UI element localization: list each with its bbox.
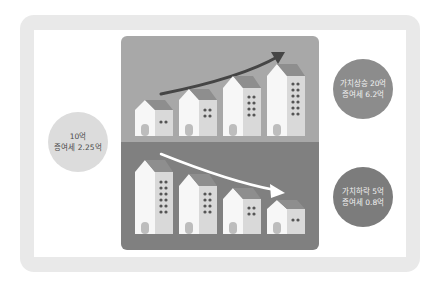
- building-icon: [179, 89, 217, 136]
- building-icon: [223, 76, 261, 136]
- initial-gift-tax-label: 증여세 2.25억: [54, 142, 101, 153]
- initial-value-label: 10억: [70, 131, 87, 142]
- building-icon: [135, 160, 173, 234]
- value-rise-badge: 가치상승 20억 증여세 6.2억: [333, 59, 393, 119]
- building-icon: [223, 188, 261, 234]
- value-rise-tax-label: 증여세 6.2억: [342, 89, 384, 100]
- value-fall-label: 가치하락 5억: [342, 186, 384, 197]
- value-fall-tax-label: 증여세 0.8억: [342, 197, 384, 208]
- initial-value-badge: 10억 증여세 2.25억: [48, 112, 108, 172]
- house-icon: [267, 200, 305, 234]
- building-icon: [179, 174, 217, 234]
- value-rise-label: 가치상승 20억: [340, 78, 387, 89]
- building-icon: [267, 64, 305, 136]
- illustration-panel: [121, 36, 319, 250]
- house-icon: [135, 100, 173, 136]
- value-fall-badge: 가치하락 5억 증여세 0.8억: [333, 167, 393, 227]
